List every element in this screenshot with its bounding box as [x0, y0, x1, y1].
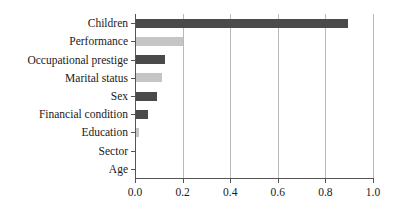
- gridline-0.4: [230, 14, 231, 178]
- category-label: Financial condition: [0, 108, 128, 120]
- category-label: Performance: [0, 35, 128, 47]
- y-axis-tick: [131, 41, 135, 42]
- bar: [135, 73, 162, 82]
- bar: [135, 55, 165, 64]
- y-axis-tick: [131, 78, 135, 79]
- y-axis-tick: [131, 114, 135, 115]
- x-axis-tick-label: 0.8: [305, 186, 345, 199]
- y-axis-tick: [131, 169, 135, 170]
- category-label: Sex: [0, 90, 128, 102]
- category-label: Education: [0, 126, 128, 138]
- x-axis-tick: [183, 179, 184, 183]
- y-axis-tick: [131, 132, 135, 133]
- category-label: Children: [0, 17, 128, 29]
- y-axis-line: [135, 14, 136, 178]
- bar: [135, 92, 157, 101]
- x-axis-tick: [373, 179, 374, 183]
- category-axis-labels: ChildrenPerformanceOccupational prestige…: [0, 14, 128, 178]
- x-axis-tick-label: 0.6: [258, 186, 298, 199]
- y-axis-tick: [131, 23, 135, 24]
- gridline-0.8: [325, 14, 326, 178]
- bar: [135, 110, 148, 119]
- bar: [135, 19, 348, 28]
- x-axis-tick-label: 0.2: [163, 186, 203, 199]
- gridline-1.0: [373, 14, 374, 178]
- y-axis-tick: [131, 96, 135, 97]
- gridline-0.6: [278, 14, 279, 178]
- x-axis-tick: [278, 179, 279, 183]
- y-axis-tick: [131, 60, 135, 61]
- x-axis-tick-label: 1.0: [353, 186, 393, 199]
- category-label: Age: [0, 163, 128, 175]
- x-axis-line: [135, 178, 374, 179]
- x-axis-tick: [230, 179, 231, 183]
- x-axis-tick: [135, 179, 136, 183]
- y-axis-tick: [131, 151, 135, 152]
- x-axis-tick: [325, 179, 326, 183]
- bar-chart: ChildrenPerformanceOccupational prestige…: [0, 0, 398, 212]
- category-label: Sector: [0, 145, 128, 157]
- category-label: Marital status: [0, 72, 128, 84]
- x-axis-tick-label: 0.0: [115, 186, 155, 199]
- x-axis-tick-label: 0.4: [210, 186, 250, 199]
- bar: [135, 37, 183, 46]
- plot-area: [135, 14, 373, 178]
- category-label: Occupational prestige: [0, 54, 128, 66]
